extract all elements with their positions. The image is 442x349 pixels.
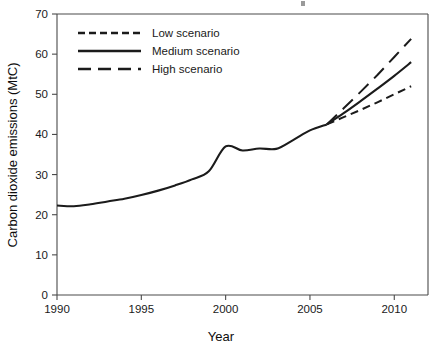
y-tick-label: 50 <box>35 88 48 100</box>
y-axis-title: Carbon dioxide emissions (MtC) <box>5 63 20 248</box>
y-tick-label: 70 <box>35 8 48 20</box>
cropped-title-mark <box>301 1 305 6</box>
x-tick-label: 2005 <box>297 303 323 315</box>
y-tick-label: 20 <box>35 209 48 221</box>
y-tick-label: 40 <box>35 128 48 140</box>
y-tick-label: 10 <box>35 249 48 261</box>
x-tick-label: 2000 <box>213 303 239 315</box>
x-tick-label: 1990 <box>44 303 70 315</box>
co2-emissions-line-chart: 010203040506070 19901995200020052010 Yea… <box>0 0 442 349</box>
legend: Low scenario Medium scenario High scenar… <box>78 27 240 75</box>
y-tick-label: 30 <box>35 169 48 181</box>
x-tick-label: 1995 <box>129 303 155 315</box>
legend-label-high-scenario: High scenario <box>152 63 222 75</box>
y-tick-label: 60 <box>35 48 48 60</box>
x-tick-label: 2010 <box>381 303 407 315</box>
legend-label-low-scenario: Low scenario <box>152 27 220 39</box>
x-axis-title: Year <box>208 329 235 344</box>
y-tick-label: 0 <box>42 289 48 301</box>
legend-label-medium-scenario: Medium scenario <box>152 45 240 57</box>
chart-container: 010203040506070 19901995200020052010 Yea… <box>0 0 442 349</box>
